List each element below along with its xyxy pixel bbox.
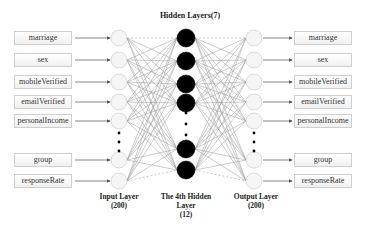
- input-node: [111, 94, 127, 110]
- output-layer-count: (200): [226, 201, 286, 210]
- output-feature-personalincome: personalIncome: [294, 114, 352, 128]
- ellipsis-dot: [185, 112, 188, 115]
- hidden-node: [177, 140, 195, 158]
- input-layer-name: Input Layer: [93, 192, 145, 201]
- ellipsis-dot: [118, 132, 121, 135]
- output-feature-emailverified: emailVerified: [294, 95, 352, 109]
- hidden-layer-name-2: Layer: [153, 201, 219, 210]
- output-feature-marriage: marriage: [294, 31, 352, 45]
- input-feature-mobileverified: mobileVerified: [14, 75, 72, 89]
- output-node: [246, 30, 262, 46]
- output-feature-group: group: [294, 153, 352, 167]
- output-node: [246, 74, 262, 90]
- input-feature-marriage: marriage: [14, 31, 72, 45]
- ellipsis-dot: [118, 141, 121, 144]
- hidden-layers-title: Hidden Layers(7): [150, 11, 230, 20]
- ellipsis-dot: [118, 150, 121, 153]
- output-feature-mobileverified: mobileVerified: [294, 75, 352, 89]
- input-layer-label: Input Layer (200): [93, 192, 145, 210]
- hidden-layer-name-1: The 4th Hidden: [153, 192, 219, 201]
- input-feature-group: group: [14, 153, 72, 167]
- hidden-layer-count: (12): [153, 210, 219, 219]
- output-node: [246, 152, 262, 168]
- ellipsis-dot: [253, 141, 256, 144]
- output-node: [246, 173, 262, 189]
- hidden-node: [177, 29, 195, 47]
- input-node: [111, 173, 127, 189]
- input-feature-personalincome: personalIncome: [14, 114, 72, 128]
- ellipsis-dot: [253, 132, 256, 135]
- input-feature-responserate: responseRate: [14, 174, 72, 188]
- output-feature-sex: sex: [294, 53, 352, 67]
- ellipsis-dot: [185, 134, 188, 137]
- input-node: [111, 74, 127, 90]
- output-node: [246, 52, 262, 68]
- input-node: [111, 30, 127, 46]
- hidden-node: [177, 75, 195, 93]
- ellipsis-dot: [185, 123, 188, 126]
- input-node: [111, 152, 127, 168]
- hidden-layer-label: The 4th Hidden Layer (12): [153, 192, 219, 219]
- output-node: [246, 94, 262, 110]
- input-node: [111, 52, 127, 68]
- ellipsis-dot: [253, 150, 256, 153]
- hidden-node: [177, 52, 195, 70]
- neural-network-diagram: Hidden Layers(7) marriagesexmobileVerifi…: [0, 0, 376, 232]
- input-layer-count: (200): [93, 201, 145, 210]
- input-feature-emailverified: emailVerified: [14, 95, 72, 109]
- output-node: [246, 113, 262, 129]
- input-node: [111, 113, 127, 129]
- output-layer-label: Output Layer (200): [226, 192, 286, 210]
- input-feature-sex: sex: [14, 53, 72, 67]
- hidden-node: [177, 94, 195, 112]
- output-feature-responserate: responseRate: [294, 174, 352, 188]
- output-layer-name: Output Layer: [226, 192, 286, 201]
- hidden-node: [177, 161, 195, 179]
